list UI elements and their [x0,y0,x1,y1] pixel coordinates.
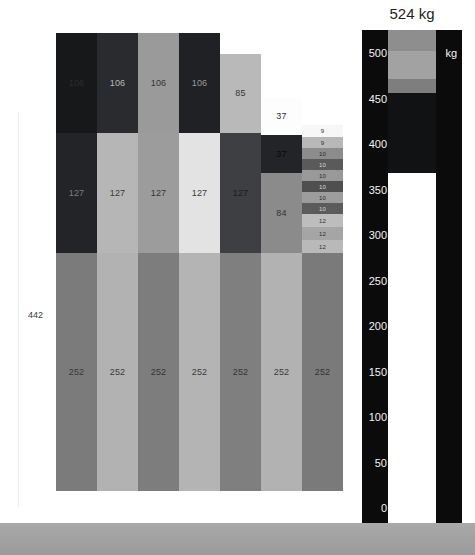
bar-segment-value: 37 [276,112,286,121]
gauge-title: 524 kg [362,5,462,22]
bar-segment-value: 10 [319,206,326,212]
gauge-fill-segment-dark [388,93,436,172]
bar-segment-value: 9 [321,128,325,134]
bar-segment-value: 127 [110,189,126,198]
bar-column[interactable]: 373784252 [261,98,302,491]
bar-segment-value: 252 [110,368,126,377]
bar-segment-value: 252 [274,368,290,377]
bar-segment[interactable]: 127 [220,133,261,253]
bar-segment-value: 252 [315,368,331,377]
bar-segment-value: 127 [192,189,208,198]
bar-segment-value: 127 [233,189,249,198]
bar-segment[interactable]: 85 [220,54,261,133]
bar-segment[interactable]: 127 [97,133,138,253]
gauge-unit-label: kg [445,47,457,59]
bar-segment[interactable]: 106 [97,33,138,133]
gauge-tick-label: 150 [365,366,387,378]
bar-segment-value: 127 [151,189,167,198]
total-label-442: 442 [28,310,43,320]
bar-segment-value: 106 [151,79,167,88]
bar-segment[interactable]: 106 [138,33,179,133]
gauge-tick-label: 200 [365,320,387,332]
bar-column[interactable]: 99101010101010121212252 [302,125,343,491]
bar-segment-value: 10 [319,151,326,157]
bar-segment-value: 9 [321,140,325,146]
bar-segment[interactable]: 252 [56,253,97,491]
bar-segment-value: 252 [233,368,249,377]
bar-segment[interactable]: 252 [179,253,220,491]
bar-column[interactable]: 106127252 [138,33,179,491]
bar-segment[interactable]: 252 [97,253,138,491]
bar-segment-value: 10 [319,184,326,190]
bar-segment[interactable]: 12 [302,240,343,253]
bar-segment[interactable]: 127 [56,133,97,253]
bar-segment-value: 127 [69,189,85,198]
bar-segment[interactable]: 84 [261,173,302,253]
bar-segment[interactable]: 10 [302,148,343,159]
bar-segment[interactable]: 12 [302,227,343,240]
gauge-tick-label: 350 [365,184,387,196]
bar-segment-value: 12 [319,231,326,237]
bar-segment[interactable]: 106 [179,33,220,133]
gauge-tick-label: 450 [365,93,387,105]
gauge-fill-segment-mid [388,51,436,79]
bar-segment[interactable]: 106 [56,33,97,133]
bar-segment[interactable]: 10 [302,192,343,203]
gauge-tick-label: 400 [365,138,387,150]
bar-segment-value: 252 [151,368,167,377]
bar-column[interactable]: 106127252 [97,33,138,491]
bar-segment[interactable]: 252 [261,253,302,491]
bar-segment[interactable]: 252 [302,253,343,491]
gauge-tick-label: 500 [365,47,387,59]
bar-segment-value: 12 [319,244,326,250]
bar-segment-value: 252 [192,368,208,377]
gauge-tick-label: 50 [365,457,387,469]
bar-segment-value: 10 [319,173,326,179]
bar-segment[interactable]: 10 [302,181,343,192]
scene-root: 1061272521061272521061272521061272528512… [0,0,475,555]
bar-segment[interactable]: 10 [302,159,343,170]
bar-segment-value: 10 [319,195,326,201]
gauge-tube [388,30,436,525]
bar-segment[interactable]: 127 [138,133,179,253]
gauge-tick-label: 300 [365,229,387,241]
bar-segment-value: 106 [69,79,85,88]
ground-band [0,523,475,555]
bar-segment[interactable]: 9 [302,125,343,137]
bar-segment[interactable]: 10 [302,170,343,181]
gauge-tick-label: 0 [365,502,387,514]
bar-segment[interactable]: 12 [302,214,343,227]
bar-segment-value: 12 [319,218,326,224]
gauge-tick-label: 250 [365,275,387,287]
weight-gauge: 500450400350300250200150100500 kg [362,30,462,525]
bar-segment[interactable]: 10 [302,203,343,214]
bar-segment-value: 85 [235,89,245,98]
bar-segment-value: 106 [192,79,208,88]
gauge-fill-segment-upper [388,30,436,51]
bar-column[interactable]: 85127252 [220,54,261,491]
bar-segment-value: 10 [319,162,326,168]
bar-segment[interactable]: 252 [138,253,179,491]
bar-segment[interactable]: 252 [220,253,261,491]
bar-segment[interactable]: 127 [179,133,220,253]
bar-segment-value: 106 [110,79,126,88]
bar-segment-value: 37 [276,150,286,159]
bar-column[interactable]: 106127252 [179,33,220,491]
bar-segment[interactable]: 9 [302,137,343,148]
bar-column[interactable]: 106127252 [56,33,97,491]
stacked-bar-chart: 1061272521061272521061272521061272528512… [0,0,345,523]
gauge-tick-label: 100 [365,411,387,423]
bar-segment-value: 84 [276,209,286,218]
bar-segment-value: 252 [69,368,85,377]
gauge-fill-segment-lower [388,79,436,94]
bar-segment[interactable]: 37 [261,135,302,173]
bar-segment[interactable]: 37 [261,98,302,135]
